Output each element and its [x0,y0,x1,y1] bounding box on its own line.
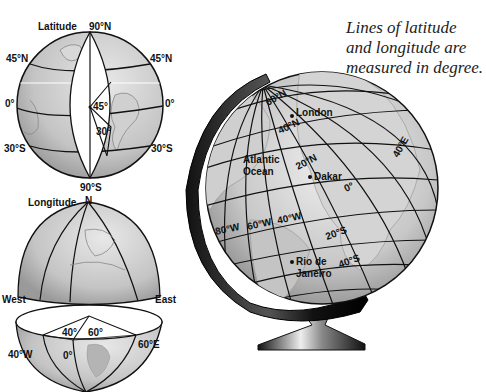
latitude-globe: Latitude 90°N 90°S 45°N 0° 30°S 45°N 0° … [4,21,175,193]
latitude-title: Latitude [38,21,77,32]
desk-globe: 60°N 40°N 20°N 0° 20°S 40°S 80°W 60°W 40… [186,68,438,351]
rio-dot [290,260,294,264]
west-label: West [2,294,26,305]
east-label: East [155,294,177,305]
caption-line-2: and longitude are [346,38,486,58]
angle-60-label: 60° [88,327,103,338]
prime-meridian-label: 0° [63,350,73,361]
ocean-label-line2: Ocean [243,166,274,177]
rio-label-line2: Janeiro [296,268,332,279]
london-label: London [296,107,333,118]
dakar-dot [308,175,312,179]
globe-base [258,318,365,350]
ocean-label-line1: Atlantic [243,154,280,165]
right-equator-label: 0° [165,98,175,109]
left-45n-label: 45°N [6,53,28,64]
caption: Lines of latitude and longitude are meas… [346,18,486,78]
left-30s-label: 30°S [4,143,26,154]
dakar-label: Dakar [314,171,342,182]
longitude-title: Longitude [28,197,77,208]
right-30s-label: 30°S [151,143,173,154]
north-label: N [85,195,92,206]
northern-hemisphere [18,202,160,305]
40w-label: 40°W [8,349,33,360]
60e-label: 60°E [138,339,160,350]
angle-30-label: 30° [96,126,111,137]
angle-45-label: 45° [93,101,108,112]
north-pole-label: 90°N [89,21,111,32]
rio-label-line1: Rio de [296,256,327,267]
longitude-globe: Longitude N West East 40° 60° 40°W 0° 60… [2,195,177,392]
caption-line-1: Lines of latitude [346,18,486,38]
angle-40-label: 40° [62,327,77,338]
right-45n-label: 45°N [150,53,172,64]
south-pole-label: 90°S [80,182,102,193]
left-equator-label: 0° [5,98,15,109]
caption-line-3: measured in degree. [346,58,486,78]
